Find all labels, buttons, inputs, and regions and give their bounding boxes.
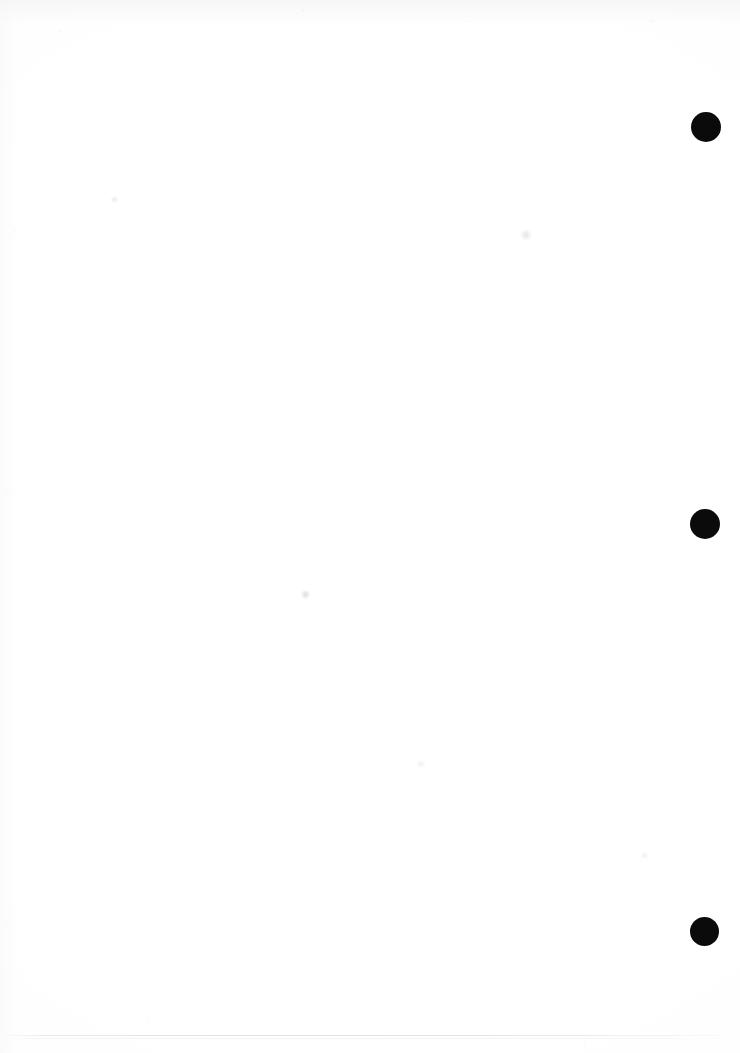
margin-mark-2 — [690, 509, 720, 539]
margin-mark-3 — [690, 917, 719, 946]
page-text-area — [60, 60, 660, 990]
margin-mark-1 — [691, 112, 721, 142]
scanned-page — [0, 0, 740, 1053]
